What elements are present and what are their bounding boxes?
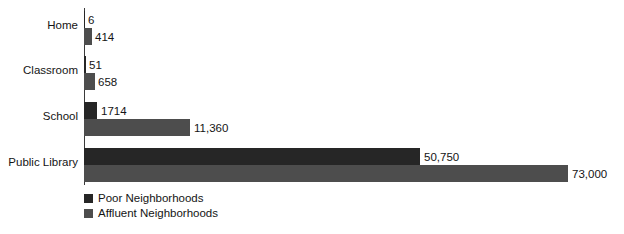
chart-legend: Poor Neighborhoods Affluent Neighborhood…	[84, 191, 218, 221]
bar-school-poor	[84, 102, 97, 119]
bar-value-classroom-poor: 51	[89, 58, 102, 71]
category-group-home: Home 6 414	[0, 8, 624, 48]
bar-value-school-affluent: 11,360	[194, 121, 228, 134]
legend-item-affluent: Affluent Neighborhoods	[84, 206, 218, 221]
category-label-public-library: Public Library	[0, 156, 78, 169]
plot-area: Home 6 414 Classroom 51 658	[0, 0, 624, 190]
bar-home-poor	[84, 11, 85, 28]
bar-value-public-library-poor: 50,750	[424, 150, 459, 163]
category-group-classroom: Classroom 51 658	[0, 53, 624, 93]
bar-value-home-affluent: 414	[95, 30, 114, 43]
legend-label-affluent: Affluent Neighborhoods	[98, 207, 218, 220]
legend-swatch-icon-affluent	[84, 209, 93, 218]
bar-value-public-library-affluent: 73,000	[572, 167, 607, 180]
bar-public-library-poor	[84, 148, 420, 165]
bar-home-affluent	[84, 28, 92, 45]
bar-value-school-poor: 1714	[101, 104, 127, 117]
bar-value-classroom-affluent: 658	[98, 75, 117, 88]
legend-label-poor: Poor Neighborhoods	[98, 192, 204, 205]
bar-chart: Home 6 414 Classroom 51 658	[0, 0, 624, 234]
category-label-classroom: Classroom	[0, 64, 78, 77]
bar-value-home-poor: 6	[88, 13, 94, 26]
category-group-public-library: Public Library 50,750 73,000	[0, 145, 624, 185]
bar-classroom-poor	[84, 56, 86, 73]
category-label-home: Home	[0, 19, 78, 32]
legend-swatch-icon-poor	[84, 194, 93, 203]
bar-classroom-affluent	[84, 73, 95, 90]
bar-school-affluent	[84, 119, 190, 136]
legend-item-poor: Poor Neighborhoods	[84, 191, 218, 206]
category-label-school: School	[0, 110, 78, 123]
bar-public-library-affluent	[84, 165, 568, 182]
category-group-school: School 1714 11,360	[0, 99, 624, 139]
